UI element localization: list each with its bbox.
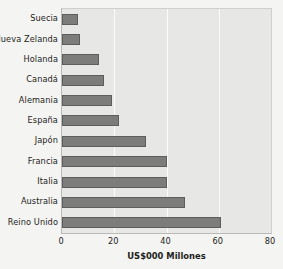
x-tick-label: 0 <box>58 236 63 246</box>
bar-row <box>62 29 271 49</box>
category-label: Reino Unido <box>0 212 58 232</box>
bar-row <box>62 50 271 70</box>
category-label: Japón <box>0 130 58 150</box>
bar-row <box>62 213 271 233</box>
bar <box>62 177 167 188</box>
bars-layer <box>62 9 271 233</box>
x-tick-label: 20 <box>108 236 118 246</box>
category-label: Francia <box>0 151 58 171</box>
bar-row <box>62 172 271 192</box>
bar-row <box>62 9 271 29</box>
plot-area <box>61 8 272 234</box>
bar-row <box>62 111 271 131</box>
x-tick-label: 60 <box>213 236 223 246</box>
value-axis-ticks: 020406080 <box>61 236 272 248</box>
bar <box>62 136 146 147</box>
category-label: Australia <box>0 191 58 211</box>
category-label: Alemania <box>0 89 58 109</box>
category-label: Italia <box>0 171 58 191</box>
x-axis-title: US$000 Millones <box>61 251 272 261</box>
category-label: España <box>0 110 58 130</box>
category-label: Holanda <box>0 49 58 69</box>
category-label: Suecia <box>0 8 58 28</box>
bar-row <box>62 70 271 90</box>
category-label: Canadá <box>0 69 58 89</box>
category-axis-labels: SueciaNueva ZelandaHolandaCanadáAlemania… <box>0 8 58 234</box>
bar <box>62 217 221 228</box>
bar <box>62 156 167 167</box>
bar <box>62 75 104 86</box>
x-tick-label: 80 <box>265 236 275 246</box>
bar <box>62 197 185 208</box>
bar-row <box>62 90 271 110</box>
bar <box>62 115 119 126</box>
bar <box>62 95 112 106</box>
x-tick-label: 40 <box>160 236 170 246</box>
bar <box>62 34 80 45</box>
bar <box>62 54 99 65</box>
bar-row <box>62 192 271 212</box>
bar <box>62 14 78 25</box>
bar-row <box>62 152 271 172</box>
category-label: Nueva Zelanda <box>0 28 58 48</box>
bar-row <box>62 131 271 151</box>
bar-chart: SueciaNueva ZelandaHolandaCanadáAlemania… <box>0 0 283 269</box>
